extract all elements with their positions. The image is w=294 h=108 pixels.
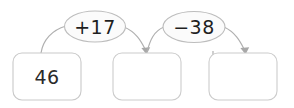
diagram-canvas: 46 +17 −38 [0,0,294,108]
operation-1: +17 [65,11,126,42]
start-box-value: 46 [34,66,59,88]
operation-2-label: −38 [173,16,215,38]
start-box: 46 [13,53,81,100]
answer-box-1[interactable] [113,53,181,100]
number-chain-diagram: 46 +17 −38 [0,0,294,108]
operation-2: −38 [163,12,225,43]
answer-box-2[interactable] [209,53,277,100]
arrow-operation-1-to-answer-1 [124,27,150,55]
arrow-start-to-operation-1 [41,26,66,53]
arrow-operation-2-to-answer-2 [224,27,249,55]
operation-1-label: +17 [74,16,116,38]
